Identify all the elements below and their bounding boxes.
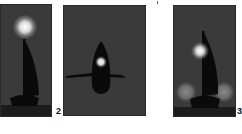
figure-tick-mark [157,1,158,4]
image-panel-3 [173,5,236,117]
image-panel-2 [63,5,146,116]
sailboat-light-above-icon [1,5,52,117]
hull-topdown-icon [64,6,146,116]
sailboat-multi-light-icon [174,6,236,117]
panel-3-label: 3 [237,107,242,116]
image-panel-1 [0,4,52,117]
panel-2-label: 2 [56,107,61,116]
